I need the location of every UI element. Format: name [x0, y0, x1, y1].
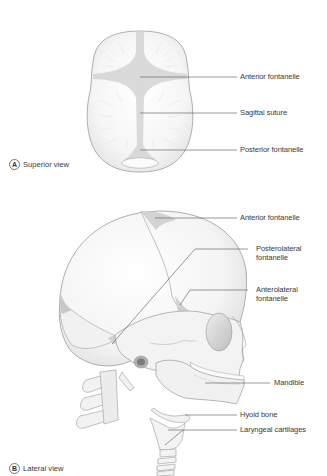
label-anterior-fontanelle-superior: Anterior fontanelle	[240, 72, 300, 81]
label-anterolateral-fontanelle: Anterolateral fontanelle	[256, 285, 298, 303]
label-anterolateral-line2: fontanelle	[256, 294, 298, 303]
cervical-vertebrae	[77, 370, 134, 428]
orbit	[206, 313, 232, 351]
lateral-view-skull	[59, 211, 246, 476]
label-posterolateral-line1: Posterolateral	[256, 244, 301, 253]
label-posterolateral-line2: fontanelle	[256, 253, 301, 262]
panel-b-caption-text: Lateral view	[23, 464, 64, 473]
panel-a-badge: A	[9, 159, 20, 170]
panel-b-badge: B	[9, 463, 20, 474]
panel-b-caption: B Lateral view	[9, 463, 64, 474]
label-anterior-fontanelle-lateral: Anterior fontanelle	[240, 213, 300, 222]
hyoid-bone	[151, 408, 190, 423]
laryngeal-cartilages	[150, 418, 185, 476]
label-laryngeal-cartilages: Laryngeal cartilages	[240, 425, 306, 434]
panel-a-caption: A Superior view	[9, 159, 69, 170]
label-sagittal-suture: Sagittal suture	[240, 108, 287, 117]
label-anterolateral-line1: Anterolateral	[256, 285, 298, 294]
superior-view-skull	[87, 31, 193, 172]
panel-a-caption-text: Superior view	[23, 160, 69, 169]
label-posterolateral-fontanelle: Posterolateral fontanelle	[256, 244, 301, 262]
label-hyoid-bone: Hyoid bone	[240, 410, 277, 419]
label-mandible: Mandible	[274, 378, 304, 387]
label-posterior-fontanelle: Posterior fontanelle	[240, 145, 303, 154]
